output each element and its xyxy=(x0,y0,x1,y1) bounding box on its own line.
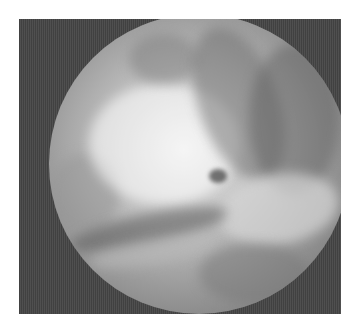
endoscopic-view xyxy=(49,19,341,314)
dark-spot xyxy=(209,169,227,183)
tissue-region xyxy=(129,34,199,84)
image-frame xyxy=(19,19,341,314)
shadow-region xyxy=(199,244,309,304)
shadow-region xyxy=(249,44,339,194)
